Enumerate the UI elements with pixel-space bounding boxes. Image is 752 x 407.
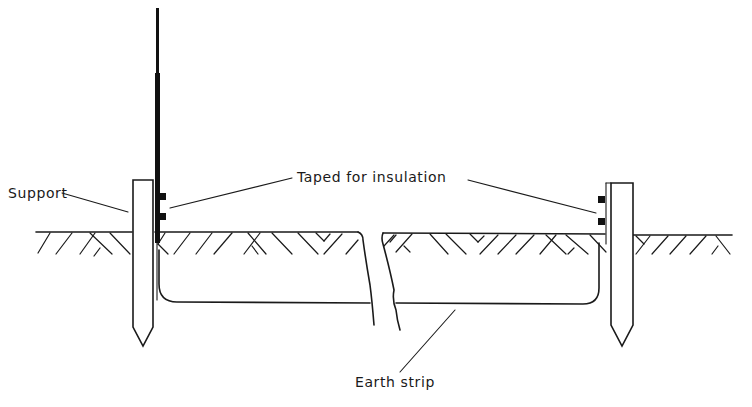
vertical-lead bbox=[155, 8, 166, 300]
taped-insulation-label: Taped for insulation bbox=[296, 169, 447, 185]
earth-strip-diagram: Support Taped for insulation Earth strip bbox=[0, 0, 752, 407]
section-break bbox=[358, 232, 400, 330]
clamp-lower-left bbox=[159, 213, 166, 220]
support-label: Support bbox=[8, 185, 68, 201]
right-support bbox=[598, 183, 633, 346]
clamp-lower-right bbox=[598, 218, 605, 225]
earth-strip-label: Earth strip bbox=[355, 374, 435, 390]
earth-strip bbox=[159, 243, 599, 304]
clamp-upper-right bbox=[598, 196, 605, 203]
left-support bbox=[133, 180, 153, 346]
clamp-upper-left bbox=[159, 193, 166, 200]
